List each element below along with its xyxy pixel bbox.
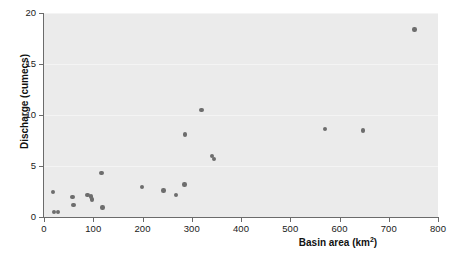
y-tick-label: 20	[25, 8, 36, 18]
data-point	[182, 182, 186, 186]
gridline-y	[44, 13, 438, 14]
x-tick-mark	[93, 218, 94, 222]
data-point	[99, 171, 103, 175]
data-point	[100, 205, 104, 209]
x-tick-mark	[340, 218, 341, 222]
x-axis-title-base: Basin area (km	[299, 237, 370, 248]
y-tick-label: 0	[31, 212, 36, 222]
data-point	[51, 190, 55, 194]
data-point	[361, 128, 365, 132]
gridline-y	[44, 166, 438, 167]
gridline-y	[44, 64, 438, 65]
data-point	[183, 132, 187, 136]
x-tick-label: 100	[78, 224, 108, 234]
data-point	[71, 203, 75, 207]
x-tick-label: 0	[29, 224, 59, 234]
y-tick-mark	[39, 217, 43, 218]
y-tick-mark	[39, 13, 43, 14]
data-point	[140, 185, 144, 189]
y-axis-line	[43, 13, 44, 218]
gridline-y	[44, 115, 438, 116]
y-tick-mark	[39, 64, 43, 65]
x-tick-mark	[389, 218, 390, 222]
data-point	[199, 108, 203, 112]
x-tick-label: 400	[226, 224, 256, 234]
x-axis-title-tail: )	[374, 237, 377, 248]
scatter-chart-figure: 05101520 0100200300400500600700800 Disch…	[0, 0, 453, 256]
data-point	[56, 210, 60, 214]
x-tick-mark	[192, 218, 193, 222]
x-tick-mark	[438, 218, 439, 222]
data-point	[70, 195, 74, 199]
x-tick-label: 800	[423, 224, 453, 234]
x-axis-title: Basin area (km2)	[238, 236, 438, 248]
x-tick-label: 700	[374, 224, 404, 234]
x-tick-mark	[241, 218, 242, 222]
data-point	[323, 127, 327, 131]
y-tick-label: 5	[31, 161, 36, 171]
x-tick-label: 500	[275, 224, 305, 234]
y-tick-mark	[39, 166, 43, 167]
data-point	[174, 193, 178, 197]
data-point	[90, 197, 94, 201]
x-tick-label: 200	[128, 224, 158, 234]
y-axis-title: Discharge (cumecs)	[19, 22, 30, 182]
data-point	[412, 27, 416, 31]
x-tick-label: 600	[325, 224, 355, 234]
plot-area	[44, 13, 438, 217]
y-tick-mark	[39, 115, 43, 116]
data-point	[212, 157, 216, 161]
data-point	[161, 188, 165, 192]
x-tick-mark	[290, 218, 291, 222]
x-tick-mark	[143, 218, 144, 222]
x-tick-mark	[44, 218, 45, 222]
x-tick-label: 300	[177, 224, 207, 234]
